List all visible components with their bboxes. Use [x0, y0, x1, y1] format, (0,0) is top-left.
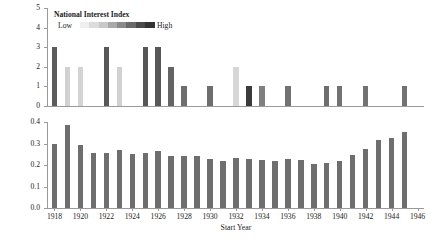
- x-tick: [80, 209, 81, 211]
- x-axis-line: [47, 106, 424, 107]
- bar: [233, 67, 238, 106]
- x-tick-label: 1922: [92, 212, 120, 221]
- x-tick-label: 1940: [326, 212, 354, 221]
- bar: [78, 145, 83, 208]
- y-tick: [44, 144, 47, 145]
- bar: [337, 161, 342, 208]
- bar: [246, 159, 251, 208]
- x-tick: [184, 209, 185, 211]
- bar: [65, 67, 70, 106]
- bar: [194, 156, 199, 208]
- y-tick-label: 3: [16, 42, 40, 51]
- bar: [143, 47, 148, 106]
- y-tick-label: 0.1: [16, 182, 40, 191]
- bar: [376, 140, 381, 208]
- x-tick: [106, 209, 107, 211]
- bar: [402, 132, 407, 208]
- bar: [52, 144, 57, 208]
- y-axis-line: [47, 8, 48, 106]
- y-tick: [44, 28, 47, 29]
- bar: [298, 160, 303, 208]
- x-tick-label: 1932: [222, 212, 250, 221]
- x-tick-label: 1946: [404, 212, 432, 221]
- y-tick-label: 0.3: [16, 139, 40, 148]
- cinc-panel: [48, 122, 424, 208]
- bar: [272, 161, 277, 208]
- x-tick-label: 1926: [144, 212, 172, 221]
- bar: [259, 160, 264, 208]
- bar: [117, 67, 122, 106]
- bar: [104, 47, 109, 106]
- y-tick-label: 4: [16, 23, 40, 32]
- bar: [350, 155, 355, 208]
- y-tick-label: 0.4: [16, 117, 40, 126]
- x-tick: [314, 209, 315, 211]
- y-tick: [44, 122, 47, 123]
- bar: [78, 67, 83, 106]
- y-tick: [44, 86, 47, 87]
- x-tick: [132, 209, 133, 211]
- bar: [130, 154, 135, 208]
- x-tick-label: 1930: [196, 212, 224, 221]
- bar: [337, 86, 342, 106]
- x-tick: [236, 209, 237, 211]
- x-tick: [288, 209, 289, 211]
- legend-title: National Interest Index: [54, 10, 129, 19]
- bar: [117, 150, 122, 208]
- bar: [155, 47, 160, 106]
- y-tick: [44, 187, 47, 188]
- bar: [246, 86, 251, 106]
- y-tick: [44, 165, 47, 166]
- bar: [389, 138, 394, 208]
- bar: [311, 164, 316, 208]
- x-tick: [210, 209, 211, 211]
- x-tick-label: 1944: [378, 212, 406, 221]
- x-tick: [158, 209, 159, 211]
- y-tick: [44, 67, 47, 68]
- y-tick-label: 1: [16, 81, 40, 90]
- bar: [181, 156, 186, 208]
- bar: [220, 161, 225, 209]
- legend-gradient-swatch: [80, 22, 154, 28]
- x-tick: [340, 209, 341, 211]
- bar: [207, 159, 212, 208]
- y-tick: [44, 208, 47, 209]
- bar: [65, 125, 70, 208]
- bar: [91, 153, 96, 208]
- bar: [285, 86, 290, 106]
- x-tick-label: 1928: [170, 212, 198, 221]
- bar: [233, 158, 238, 208]
- x-axis-title: Start Year: [48, 223, 424, 232]
- bar: [168, 67, 173, 106]
- y-tick-label: 0: [16, 101, 40, 110]
- x-tick: [392, 209, 393, 211]
- bar: [104, 153, 109, 208]
- x-tick: [418, 209, 419, 211]
- x-tick: [262, 209, 263, 211]
- x-tick-label: 1938: [300, 212, 328, 221]
- legend-low-label: Low: [58, 21, 72, 30]
- x-tick: [366, 209, 367, 211]
- bar: [52, 47, 57, 106]
- bar: [143, 153, 148, 208]
- bar: [324, 163, 329, 208]
- x-tick-label: 1920: [66, 212, 94, 221]
- y-tick-label: 5: [16, 3, 40, 12]
- bar: [285, 159, 290, 208]
- bar: [363, 149, 368, 208]
- y-tick: [44, 8, 47, 9]
- legend: National Interest Index Low High: [54, 10, 204, 32]
- y-axis-line: [47, 122, 48, 208]
- y-tick-label: 0.0: [16, 203, 40, 212]
- y-tick: [44, 106, 47, 107]
- x-tick-label: 1918: [40, 212, 68, 221]
- x-tick-label: 1942: [352, 212, 380, 221]
- bar: [324, 86, 329, 106]
- y-tick: [44, 47, 47, 48]
- bar: [181, 86, 186, 106]
- legend-high-label: High: [157, 21, 172, 30]
- x-tick-label: 1924: [118, 212, 146, 221]
- x-tick: [54, 209, 55, 211]
- bar: [207, 86, 212, 106]
- x-tick-label: 1936: [274, 212, 302, 221]
